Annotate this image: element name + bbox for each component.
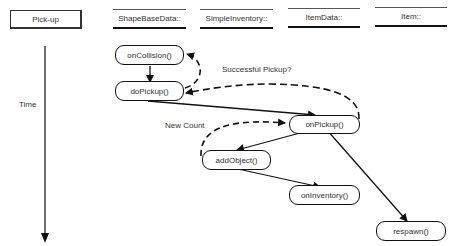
lane-header-top-rule: [375, 7, 447, 8]
node-label: onCollision(): [127, 51, 171, 60]
connector-layer: [0, 0, 458, 246]
lane-header-bottom-rule: [200, 27, 273, 29]
lane-header-bottom-rule: [375, 25, 447, 27]
node-label: onInventory(): [301, 191, 348, 200]
node-addobject: addObject(): [202, 150, 271, 170]
lane-header-bottom-rule: [288, 26, 360, 28]
node-label: onPickup(): [305, 120, 343, 129]
node-oninventory: onInventory(): [289, 185, 360, 205]
lane-header-itemdata: ItemData::: [288, 8, 360, 28]
time-axis-arrowhead: [41, 233, 49, 243]
lane-header-simpleinventory: SimpleInventory::: [200, 9, 273, 29]
time-axis-label: Time: [19, 100, 36, 109]
annotation-new-count: New Count: [165, 121, 205, 130]
node-label: addObject(): [216, 156, 258, 165]
lane-header-label: ShapeBaseData::: [118, 14, 181, 23]
edge-dopickup-oncollision-dashed: [185, 54, 200, 88]
actor-pickup-label: Pick-up: [32, 15, 59, 24]
node-respawn: respawn(): [376, 221, 446, 241]
lane-header-shapebasedata: ShapeBaseData::: [113, 9, 186, 29]
node-label: respawn(): [393, 227, 429, 236]
node-dopickup: doPickup(): [115, 81, 184, 101]
node-onpickup: onPickup(): [289, 115, 360, 134]
edge-onpickup-respawn: [327, 130, 407, 221]
edge-onpickup-dopickup-dashed: [186, 84, 359, 119]
node-label: doPickup(): [130, 87, 168, 96]
node-oncollision: onCollision(): [115, 45, 184, 65]
actor-pickup-box: Pick-up: [10, 10, 82, 29]
edge-onpickup-addobject: [237, 133, 300, 150]
lane-header-item: Item::: [375, 7, 447, 27]
lane-header-bottom-rule: [113, 27, 186, 29]
lane-header-label: Item::: [401, 12, 421, 21]
lane-header-label: ItemData::: [306, 13, 343, 22]
lane-header-top-rule: [288, 8, 360, 9]
lane-header-top-rule: [200, 9, 273, 10]
lane-header-top-rule: [113, 9, 186, 10]
edge-dopickup-onpickup: [148, 101, 315, 115]
annotation-successful-pickup: Successful Pickup?: [222, 65, 291, 74]
lane-header-label: SimpleInventory::: [206, 14, 268, 23]
